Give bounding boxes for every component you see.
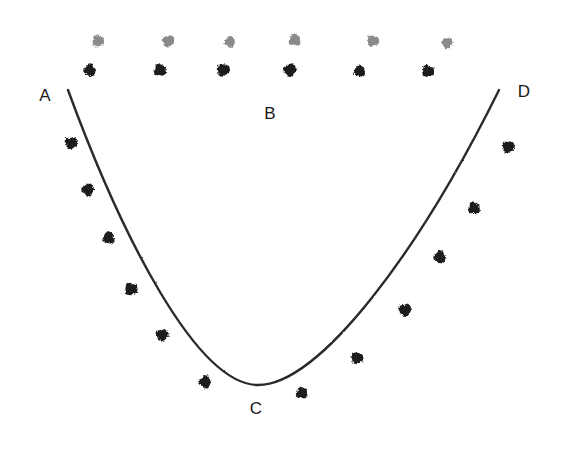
data-marker-left-arc — [102, 231, 115, 244]
data-marker-top-black-row — [217, 64, 230, 76]
data-marker-left-arc — [155, 329, 168, 342]
vertex-label-a: A — [39, 87, 50, 104]
lines-layer — [68, 90, 499, 385]
data-marker-left-arc — [198, 375, 211, 388]
data-marker-left-arc — [81, 183, 94, 196]
data-marker-right-arc — [398, 304, 412, 317]
data-marker-right-arc — [433, 250, 445, 263]
data-marker-top-gray-row — [93, 35, 105, 47]
figure-svg — [0, 0, 566, 450]
vertex-label-c: C — [250, 400, 262, 417]
data-marker-top-black-row — [422, 65, 434, 77]
data-marker-right-arc — [502, 142, 515, 154]
data-marker-top-gray-row — [289, 33, 301, 46]
data-marker-top-black-row — [154, 63, 166, 76]
data-marker-right-arc — [468, 201, 480, 213]
data-marker-top-black-row — [83, 63, 95, 76]
data-marker-left-arc — [125, 283, 137, 295]
data-marker-left-arc — [64, 137, 78, 150]
vertex-label-b: B — [264, 105, 275, 122]
data-marker-top-gray-row — [224, 36, 235, 47]
data-marker-top-gray-row — [162, 35, 175, 47]
data-marker-top-black-row — [283, 63, 297, 77]
data-marker-top-gray-row — [441, 38, 453, 49]
markers-layer — [64, 33, 514, 399]
data-marker-top-black-row — [354, 64, 366, 77]
catenary-curve-acd — [68, 90, 499, 385]
data-marker-right-arc — [296, 386, 308, 398]
diagram-canvas: A B C D — [0, 0, 566, 450]
data-marker-right-arc — [351, 353, 363, 365]
vertex-label-d: D — [518, 83, 530, 100]
data-marker-top-gray-row — [368, 36, 380, 47]
